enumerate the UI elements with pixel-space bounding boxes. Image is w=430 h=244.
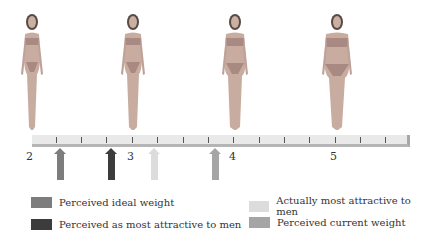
body-size-scale: [32, 135, 410, 147]
scale-tick: [132, 137, 133, 143]
body-figure-1-icon: [16, 12, 48, 132]
scale-tick: [183, 137, 184, 143]
body-figure-2-icon: [117, 12, 149, 132]
legend-swatch: [249, 217, 270, 228]
scale-tick: [385, 137, 386, 143]
legend-item-perceived-ideal: Perceived ideal weight: [31, 197, 174, 208]
legend-label: Perceived ideal weight: [59, 197, 174, 208]
legend-item-perceived-current: Perceived current weight: [249, 217, 406, 228]
perceived-most-attractive-arrow-icon: [108, 148, 115, 180]
scale-label-3: 3: [127, 150, 134, 163]
scale-label-4: 4: [229, 150, 236, 163]
actually-most-attractive-arrow-icon: [151, 148, 158, 180]
perceived-current-arrow-icon: [212, 148, 219, 180]
legend-swatch: [31, 219, 52, 230]
scale-tick: [106, 137, 107, 143]
scale-tick: [208, 137, 209, 143]
scale-tick: [284, 137, 285, 143]
legend-label: Perceived as most attractive to men: [59, 219, 241, 230]
legend-label: Perceived current weight: [277, 217, 406, 228]
body-figure-3-icon: [219, 12, 251, 132]
scale-tick: [81, 137, 82, 143]
legend-item-actually-most-attractive: Actually most attractive to men: [249, 195, 430, 217]
scale-tick: [56, 137, 57, 143]
legend-swatch: [31, 197, 52, 208]
perceived-ideal-arrow-icon: [57, 148, 64, 180]
scale-tick: [309, 137, 310, 143]
scale-tick: [259, 137, 260, 143]
scale-tick: [335, 137, 336, 143]
scale-tick: [233, 137, 234, 143]
legend-label: Actually most attractive to men: [276, 195, 430, 217]
body-figure-4-icon: [320, 12, 354, 132]
scale-tick: [157, 137, 158, 143]
scale-tick: [360, 137, 361, 143]
legend-swatch: [249, 201, 269, 212]
legend-item-perceived-most-attractive: Perceived as most attractive to men: [31, 219, 241, 230]
scale-label-5: 5: [330, 150, 337, 163]
scale-label-2: 2: [26, 150, 33, 163]
